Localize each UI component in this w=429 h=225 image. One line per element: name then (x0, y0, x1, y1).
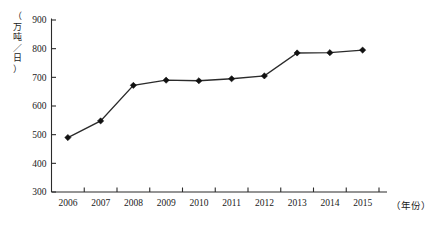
data-point-marker (65, 134, 71, 140)
y-tick-label: 600 (32, 101, 47, 111)
x-axis-tick-labels: 2006200720082009201020112012201320142015 (58, 198, 372, 208)
series-markers (65, 47, 366, 141)
y-tick-label: 500 (32, 130, 47, 140)
y-tick-label: 900 (32, 15, 47, 25)
y-tick-label: 400 (32, 159, 47, 169)
x-axis-unit-label: （年份） (391, 198, 429, 212)
x-tick-label: 2012 (255, 198, 274, 208)
x-tick-label: 2011 (222, 198, 241, 208)
series-line (68, 50, 363, 137)
x-tick-label: 2015 (353, 198, 372, 208)
x-tick-label: 2008 (124, 198, 143, 208)
data-point-marker (360, 47, 366, 53)
data-point-marker (229, 76, 235, 82)
chart-axes (52, 19, 388, 193)
x-axis-ticks (84, 188, 379, 193)
y-tick-label: 300 (32, 187, 47, 197)
data-point-marker (327, 50, 333, 56)
y-tick-label: 800 (32, 44, 47, 54)
x-tick-label: 2006 (58, 198, 77, 208)
data-series-group (65, 47, 366, 141)
x-tick-label: 2009 (157, 198, 176, 208)
y-axis-tick-labels: 900800700600500400300 (32, 15, 47, 197)
y-tick-label: 700 (32, 73, 47, 83)
data-point-marker (196, 78, 202, 84)
x-tick-label: 2007 (91, 198, 110, 208)
x-tick-label: 2013 (288, 198, 307, 208)
y-axis-ticks (52, 20, 57, 192)
x-tick-label: 2014 (320, 198, 339, 208)
x-tick-label: 2010 (189, 198, 208, 208)
data-point-marker (163, 77, 169, 83)
